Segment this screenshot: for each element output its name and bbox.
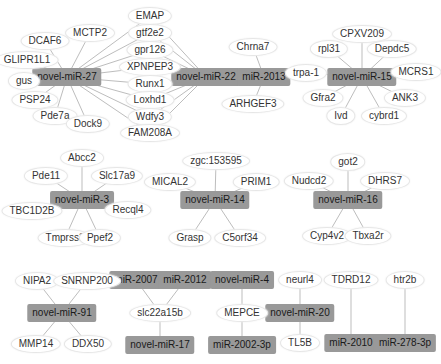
gene-node[interactable]: EMAP xyxy=(128,7,172,25)
gene-node[interactable]: TBC1D2B xyxy=(1,202,62,220)
gene-node[interactable]: trpa-1 xyxy=(285,64,327,82)
mirna-node[interactable]: miR-278-3p xyxy=(374,334,436,352)
mirna-node[interactable]: novel-miR-27 xyxy=(32,68,101,86)
gene-node[interactable]: Depdc5 xyxy=(367,40,417,58)
mirna-node[interactable]: novel-miR-15 xyxy=(327,68,396,86)
gene-node[interactable]: slc22a15b xyxy=(129,304,191,322)
gene-node[interactable]: neurl4 xyxy=(278,271,322,289)
gene-node[interactable]: Chrna7 xyxy=(229,38,278,56)
gene-node[interactable]: PRIM1 xyxy=(233,173,280,191)
gene-node[interactable]: ANK3 xyxy=(384,89,426,107)
gene-node[interactable]: Ppef2 xyxy=(79,229,121,247)
gene-node[interactable]: Tbxa2r xyxy=(344,227,391,245)
gene-node[interactable]: DCAF6 xyxy=(21,32,70,50)
gene-node[interactable]: Slc17a9 xyxy=(91,167,143,185)
gene-node[interactable]: zgc:153595 xyxy=(182,152,250,170)
gene-node[interactable]: XPNPEP3 xyxy=(119,58,181,76)
gene-node[interactable]: MCTP2 xyxy=(65,24,115,42)
gene-node[interactable]: Dock9 xyxy=(66,115,110,133)
mirna-node[interactable]: novel-miR-20 xyxy=(265,304,334,322)
mirna-node[interactable]: miR-2002-3p xyxy=(208,336,276,354)
mirna-node[interactable]: novel-miR-4 xyxy=(210,271,274,289)
gene-node[interactable]: ARHGEF3 xyxy=(221,95,284,113)
gene-node[interactable]: MCRS1 xyxy=(390,63,441,81)
gene-node[interactable]: MMP14 xyxy=(11,335,61,353)
gene-node[interactable]: C5orf34 xyxy=(214,229,266,247)
gene-node[interactable]: htr2b xyxy=(386,271,425,289)
mirna-node[interactable]: miR-2010 xyxy=(324,334,377,352)
gene-node[interactable]: Pde11 xyxy=(24,167,68,185)
gene-node[interactable]: Loxhd1 xyxy=(126,91,175,109)
gene-node[interactable]: FAM208A xyxy=(120,124,180,142)
mirna-node[interactable]: novel-miR-22 xyxy=(171,68,240,86)
gene-node[interactable]: cybrd1 xyxy=(361,107,407,125)
mirna-node[interactable]: miR-2013 xyxy=(237,68,290,86)
network-diagram: novel-miR-27novel-miR-22miR-2013novel-mi… xyxy=(0,0,441,364)
mirna-node[interactable]: novel-miR-14 xyxy=(180,191,249,209)
gene-node[interactable]: rpl31 xyxy=(310,40,348,58)
gene-node[interactable]: GLIPR1L1 xyxy=(0,51,58,69)
gene-node[interactable]: Nudcd2 xyxy=(284,172,334,190)
gene-node[interactable]: DDX50 xyxy=(64,335,112,353)
gene-node[interactable]: Gfra2 xyxy=(302,89,343,107)
gene-node[interactable]: Abcc2 xyxy=(60,149,104,167)
gene-node[interactable]: TL5B xyxy=(280,334,320,352)
gene-node[interactable]: gtf2e2 xyxy=(128,24,172,42)
gene-node[interactable]: MEPCE xyxy=(216,304,268,322)
mirna-node[interactable]: novel-miR-91 xyxy=(27,304,96,322)
gene-node[interactable]: MICAL2 xyxy=(144,173,196,191)
mirna-node[interactable]: novel-miR-17 xyxy=(125,336,194,354)
gene-node[interactable]: gpr126 xyxy=(126,41,173,59)
gene-node[interactable]: gus xyxy=(8,72,40,90)
gene-node[interactable]: SNRNP200 xyxy=(53,272,121,290)
gene-node[interactable]: TDRD12 xyxy=(324,271,379,289)
mirna-node[interactable]: novel-miR-16 xyxy=(313,191,382,209)
gene-node[interactable]: Recql4 xyxy=(104,201,151,219)
gene-node[interactable]: Grasp xyxy=(168,229,211,247)
gene-node[interactable]: DHRS7 xyxy=(360,172,410,190)
mirna-node[interactable]: miR-2012 xyxy=(158,271,211,289)
